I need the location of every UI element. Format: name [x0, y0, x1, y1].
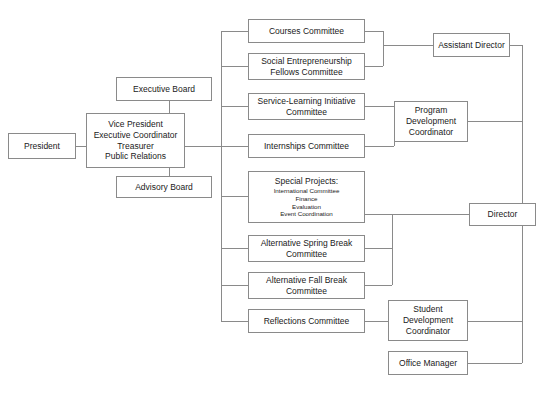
- node-office-manager[interactable]: Office Manager: [388, 351, 468, 375]
- vp-line-treasurer: Treasurer: [90, 141, 181, 152]
- student-dev-line-1: Student: [392, 304, 464, 315]
- connector-trunk-to-alt-fall-break: [221, 285, 248, 286]
- node-service-learning-initiative-committee[interactable]: Service-Learning Initiative Committee: [248, 93, 365, 120]
- alt-fall-break-line-1: Alternative Fall Break: [252, 275, 361, 286]
- connector-trunk-to-social-entrepreneurship: [221, 66, 248, 67]
- program-dev-line-2: Development: [398, 116, 464, 127]
- connector-reflections-to-student-dev: [365, 321, 388, 322]
- node-internships-committee[interactable]: Internships Committee: [248, 134, 365, 158]
- office-manager-label: Office Manager: [392, 358, 464, 369]
- connector-alt-fall-break-out: [365, 285, 392, 286]
- special-projects-item-finance: Finance: [252, 195, 361, 203]
- service-learning-line-1: Service-Learning Initiative: [252, 96, 361, 107]
- vp-line-public-relations: Public Relations: [90, 151, 181, 162]
- program-dev-line-3: Coordinator: [398, 127, 464, 138]
- connector-student-dev-to-right-trunk: [468, 321, 522, 322]
- node-assistant-director[interactable]: Assistant Director: [433, 33, 510, 57]
- alt-spring-break-line-1: Alternative Spring Break: [252, 238, 361, 249]
- connector-trunk-to-service-learning: [221, 106, 248, 107]
- connector-assistant-director-merge: [383, 31, 384, 66]
- internships-committee-label: Internships Committee: [252, 141, 361, 152]
- student-dev-line-3: Coordinator: [392, 326, 464, 337]
- node-director[interactable]: Director: [469, 203, 536, 226]
- social-entrepreneurship-line-1: Social Entrepreneurship: [252, 56, 361, 67]
- connector-service-learning-out: [365, 106, 394, 107]
- connector-merge-to-director: [392, 214, 469, 215]
- alt-fall-break-line-2: Committee: [252, 286, 361, 297]
- node-courses-committee[interactable]: Courses Committee: [248, 19, 365, 43]
- special-projects-item-event-coordination: Event Coordination: [252, 210, 361, 218]
- connector-program-dev-to-right-trunk: [468, 121, 522, 122]
- node-advisory-board-label: Advisory Board: [120, 182, 208, 193]
- node-social-entrepreneurship-fellows-committee[interactable]: Social Entrepreneurship Fellows Committe…: [248, 53, 365, 80]
- node-special-projects[interactable]: Special Projects: International Committe…: [248, 171, 365, 223]
- courses-committee-label: Courses Committee: [252, 26, 361, 37]
- node-executive-board-label: Executive Board: [120, 84, 208, 95]
- connector-trunk-to-special-projects: [221, 196, 248, 197]
- connector-courses-out: [365, 31, 383, 32]
- node-advisory-board[interactable]: Advisory Board: [116, 176, 212, 198]
- node-executive-board[interactable]: Executive Board: [116, 77, 212, 101]
- vp-line-vice-president: Vice President: [90, 119, 181, 130]
- connector-merge-to-assistant-director: [383, 45, 433, 46]
- org-chart-canvas: President Executive Board Vice President…: [0, 0, 544, 397]
- connector-trunk-to-internships: [221, 146, 248, 147]
- alt-spring-break-line-2: Committee: [252, 249, 361, 260]
- director-label: Director: [473, 209, 532, 220]
- service-learning-line-2: Committee: [252, 107, 361, 118]
- node-president[interactable]: President: [8, 133, 76, 159]
- connector-main-trunk: [221, 31, 222, 321]
- special-projects-heading: Special Projects:: [252, 176, 361, 187]
- connector-trunk-to-courses: [221, 31, 248, 32]
- connector-director-merge: [392, 214, 393, 285]
- connector-internships-out: [365, 146, 394, 147]
- node-president-label: President: [12, 141, 72, 152]
- connector-alt-spring-break-out: [365, 248, 392, 249]
- student-dev-line-2: Development: [392, 315, 464, 326]
- vp-line-executive-coordinator: Executive Coordinator: [90, 130, 181, 141]
- node-program-development-coordinator[interactable]: Program Development Coordinator: [394, 101, 468, 142]
- node-alternative-fall-break-committee[interactable]: Alternative Fall Break Committee: [248, 272, 365, 299]
- social-entrepreneurship-line-2: Fellows Committee: [252, 67, 361, 78]
- reflections-committee-label: Reflections Committee: [252, 316, 361, 327]
- connector-social-entrepreneurship-out: [365, 66, 383, 67]
- node-reflections-committee[interactable]: Reflections Committee: [248, 309, 365, 333]
- connector-trunk-to-reflections: [221, 321, 248, 322]
- connector-trunk-to-alt-spring-break: [221, 248, 248, 249]
- connector-assistant-director-to-right-trunk: [510, 45, 522, 46]
- connector-special-projects-out: [365, 214, 392, 215]
- node-vice-president-group[interactable]: Vice President Executive Coordinator Tre…: [86, 113, 185, 168]
- node-student-development-coordinator[interactable]: Student Development Coordinator: [388, 300, 468, 341]
- special-projects-item-international-committee: International Committee: [252, 187, 361, 195]
- special-projects-item-evaluation: Evaluation: [252, 203, 361, 211]
- connector-office-manager-to-right-trunk: [468, 363, 522, 364]
- node-alternative-spring-break-committee[interactable]: Alternative Spring Break Committee: [248, 235, 365, 262]
- program-dev-line-1: Program: [398, 105, 464, 116]
- assistant-director-label: Assistant Director: [437, 40, 506, 51]
